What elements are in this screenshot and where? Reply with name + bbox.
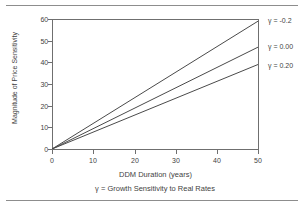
y-tick-label-60: 60 bbox=[40, 16, 48, 23]
x-tick-50 bbox=[258, 150, 259, 154]
x-tick-label-20: 20 bbox=[125, 157, 145, 164]
chart-plot bbox=[52, 19, 258, 149]
y-tick-label-10: 10 bbox=[40, 124, 48, 131]
legend-item-0: γ = -0.2 bbox=[268, 17, 292, 25]
x-axis-line bbox=[52, 149, 259, 150]
x-tick-label-10: 10 bbox=[83, 157, 103, 164]
y-tick-label-50: 50 bbox=[40, 38, 48, 45]
page-rule-top bbox=[6, 5, 298, 6]
x-tick-label-0: 0 bbox=[42, 157, 62, 164]
chart-subtitle: γ = Growth Sensitivity to Real Rates bbox=[40, 184, 270, 193]
x-tick-10 bbox=[93, 150, 94, 154]
x-tick-40 bbox=[217, 150, 218, 154]
x-tick-20 bbox=[135, 150, 136, 154]
series-line-2 bbox=[52, 65, 258, 150]
x-tick-label-40: 40 bbox=[207, 157, 227, 164]
figure: 60 50 40 30 20 10 0 0 10 20 30 40 50 Mag… bbox=[0, 0, 304, 208]
y-tick-label-40: 40 bbox=[40, 59, 48, 66]
x-tick-label-30: 30 bbox=[166, 157, 186, 164]
x-tick-0 bbox=[52, 150, 53, 154]
x-tick-label-50: 50 bbox=[248, 157, 268, 164]
x-axis-title: DDM Duration (years) bbox=[52, 170, 259, 179]
legend-item-2: γ = 0.20 bbox=[268, 62, 293, 70]
plot-frame-right bbox=[258, 19, 259, 150]
series-line-1 bbox=[52, 47, 258, 149]
y-tick-label-0: 0 bbox=[44, 146, 48, 153]
series-line-0 bbox=[52, 21, 258, 149]
x-tick-30 bbox=[176, 150, 177, 154]
legend-item-1: γ = 0.00 bbox=[268, 43, 293, 51]
y-axis-labels: 60 50 40 30 20 10 0 bbox=[20, 0, 48, 208]
y-tick-label-30: 30 bbox=[40, 81, 48, 88]
y-tick-label-20: 20 bbox=[40, 103, 48, 110]
y-axis-title: Magnitude of Price Sensitivity bbox=[11, 23, 19, 133]
page-rule-bottom bbox=[6, 200, 298, 201]
